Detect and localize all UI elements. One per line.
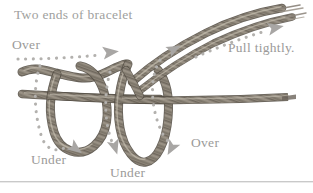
label-two-ends-of-bracelet: Two ends of bracelet — [14, 8, 133, 22]
label-under-left: Under — [31, 153, 66, 167]
label-under-center: Under — [110, 166, 145, 180]
arrow-right-icon — [102, 45, 120, 60]
label-over-left: Over — [12, 38, 40, 52]
bottom-divider — [0, 181, 313, 183]
label-pull-tightly: Pull tightly. — [228, 41, 295, 55]
knot-diagram-figure: Two ends of bracelet Over Pull tightly. … — [0, 0, 313, 193]
label-over-right: Over — [191, 136, 219, 150]
dotted-path-over-left — [18, 55, 100, 59]
